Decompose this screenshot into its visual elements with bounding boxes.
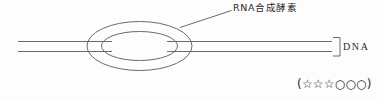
dna-label: DNA bbox=[343, 42, 369, 52]
rna-polymerase-label: RNA合成酵素 bbox=[233, 3, 297, 13]
rna-polymerase-outer-ellipse bbox=[87, 22, 192, 71]
transcription-bubble-ellipse bbox=[102, 32, 178, 61]
dna-bracket bbox=[333, 38, 340, 57]
enzyme-leader-line bbox=[180, 11, 232, 28]
difficulty-rating: (☆☆☆○○○) bbox=[297, 78, 372, 90]
biology-diagram-figure: RNA合成酵素 DNA (☆☆☆○○○) bbox=[0, 0, 382, 100]
